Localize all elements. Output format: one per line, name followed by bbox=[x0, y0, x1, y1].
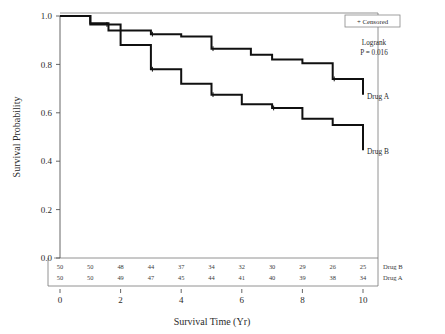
risk-count: 44 bbox=[148, 263, 155, 270]
survival-plot-svg: 0.00.20.40.60.81.0 0246810 Drug ADrug B … bbox=[0, 0, 445, 334]
risk-count: 45 bbox=[178, 274, 184, 281]
logrank-p-value: P = 0.016 bbox=[360, 49, 388, 57]
risk-count: 29 bbox=[299, 263, 305, 270]
y-axis-tick-label: 0.4 bbox=[41, 156, 53, 166]
x-axis-tick-label: 10 bbox=[359, 295, 369, 305]
risk-count: 41 bbox=[239, 274, 245, 281]
risk-count: 50 bbox=[87, 274, 93, 281]
x-axis-tick-label: 6 bbox=[240, 295, 245, 305]
risk-count: 48 bbox=[117, 263, 123, 270]
kaplan-meier-figure: 0.00.20.40.60.81.0 0246810 Drug ADrug B … bbox=[0, 0, 445, 334]
y-axis-tick-label: 1.0 bbox=[41, 11, 53, 21]
risk-count: 32 bbox=[239, 263, 245, 270]
risk-count: 47 bbox=[148, 274, 155, 281]
y-axis-title: Survival Probability bbox=[11, 97, 22, 178]
curve-end-label-drug-b: Drug B bbox=[367, 147, 389, 156]
x-axis-tick-label: 4 bbox=[179, 295, 184, 305]
risk-count: 49 bbox=[117, 274, 123, 281]
logrank-test-name: Logrank bbox=[362, 39, 387, 47]
risk-count: 34 bbox=[208, 263, 215, 270]
y-axis-tick-label: 0.2 bbox=[41, 205, 52, 215]
risk-count: 50 bbox=[87, 263, 93, 270]
x-axis-tick-label: 0 bbox=[58, 295, 63, 305]
risk-count: 38 bbox=[330, 274, 336, 281]
risk-count: 39 bbox=[299, 274, 305, 281]
legend-censored-label: + Censored bbox=[357, 18, 389, 25]
risk-count: 26 bbox=[330, 263, 336, 270]
risk-count: 37 bbox=[178, 263, 185, 270]
risk-count: 44 bbox=[208, 274, 215, 281]
y-axis-tick-label: 0.6 bbox=[41, 108, 53, 118]
x-axis-tick-label: 2 bbox=[118, 295, 123, 305]
risk-row-label-drug-a: Drug A bbox=[383, 274, 403, 281]
risk-count: 50 bbox=[57, 263, 63, 270]
risk-row-label-drug-b: Drug B bbox=[383, 263, 403, 270]
y-axis-tick-label: 0.8 bbox=[41, 60, 53, 70]
risk-count: 40 bbox=[269, 274, 275, 281]
risk-count: 25 bbox=[360, 263, 366, 270]
legend[interactable]: + Censored bbox=[345, 15, 400, 27]
risk-count: 34 bbox=[360, 274, 367, 281]
risk-count: 30 bbox=[269, 263, 275, 270]
risk-count: 50 bbox=[57, 274, 63, 281]
x-axis-title: Survival Time (Yr) bbox=[174, 316, 251, 328]
x-axis-tick-label: 8 bbox=[300, 295, 305, 305]
y-axis-tick-label: 0.0 bbox=[41, 253, 53, 263]
curve-end-label-drug-a: Drug A bbox=[367, 92, 390, 101]
